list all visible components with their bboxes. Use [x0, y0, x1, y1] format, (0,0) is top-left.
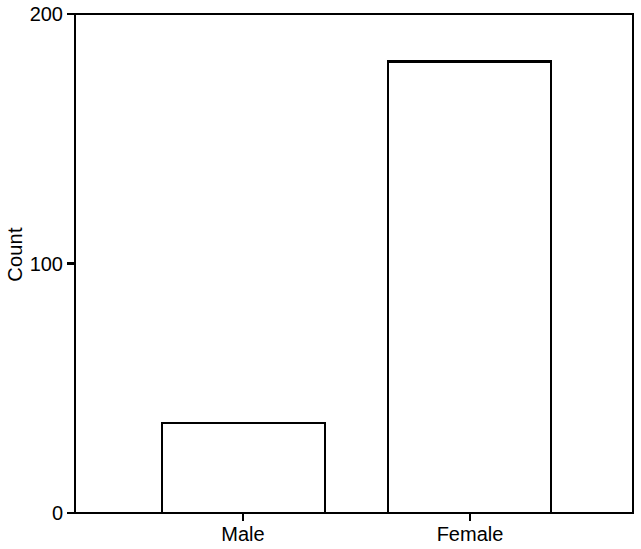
bar-chart: Count 0 100 200 Male Female — [0, 0, 641, 549]
bar-female — [388, 61, 551, 513]
plot-area — [0, 0, 641, 549]
bar-male — [162, 423, 325, 513]
